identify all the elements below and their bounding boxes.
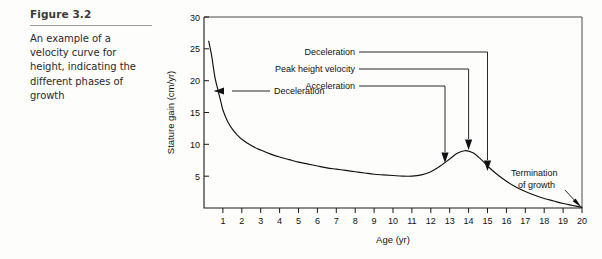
x-tick-label: 10: [388, 216, 398, 226]
annotation-termination-of-growth: Termination of growth: [511, 168, 582, 208]
chart-svg: 30 25 20 15 10 5 Stature gain (cm/yr): [160, 0, 602, 259]
arrow-head-down-icon: [441, 153, 448, 164]
annotation-label-puberty-deceleration: Deceleration: [304, 47, 355, 57]
x-tick-label: 11: [407, 216, 416, 226]
y-axis-tick-labels: 30 25 20 15 10 5: [190, 13, 200, 182]
x-tick-label: 12: [426, 216, 436, 226]
x-tick-label: 6: [315, 216, 320, 226]
x-tick-label: 15: [482, 216, 492, 226]
x-tick-label: 7: [334, 216, 339, 226]
x-axis-ticks: [223, 208, 582, 213]
y-axis-title: Stature gain (cm/yr): [165, 71, 176, 154]
arrow-head-down-icon: [465, 140, 472, 151]
x-tick-label: 4: [277, 216, 282, 226]
annotation-label-termination-line2: of growth: [518, 180, 555, 190]
caption-divider: [30, 25, 152, 26]
x-tick-label: 1: [220, 216, 225, 226]
x-tick-label: 8: [353, 216, 358, 226]
figure-caption-block: Figure 3.2 An example of a velocity curv…: [30, 8, 152, 103]
x-tick-label: 9: [372, 216, 377, 226]
x-tick-label: 18: [539, 216, 549, 226]
y-tick-label: 15: [190, 108, 200, 118]
figure-number: Figure 3.2: [30, 8, 152, 25]
y-tick-label: 20: [190, 76, 200, 86]
x-tick-label: 2: [239, 216, 244, 226]
velocity-curve-chart: 30 25 20 15 10 5 Stature gain (cm/yr): [160, 0, 602, 259]
x-tick-label: 19: [558, 216, 568, 226]
x-tick-label: 14: [464, 216, 474, 226]
x-axis-tick-labels: 1 2 3 4 5 6 7 8 9 10 11 12 13 14 15 16 1…: [220, 216, 587, 226]
figure-screenshot: Figure 3.2 An example of a velocity curv…: [0, 0, 602, 259]
x-tick-label: 16: [501, 216, 511, 226]
x-tick-label: 20: [577, 216, 587, 226]
figure-caption-text: An example of a velocity curve for heigh…: [30, 32, 152, 103]
annotation-label-peak-height-velocity: Peak height velocity: [275, 64, 356, 74]
x-tick-label: 13: [445, 216, 455, 226]
y-tick-label: 5: [195, 172, 200, 182]
y-tick-label: 30: [190, 13, 200, 23]
y-tick-label: 10: [190, 140, 200, 150]
x-tick-label: 17: [520, 216, 530, 226]
x-axis-title: Age (yr): [376, 234, 410, 245]
annotation-label-termination-line1: Termination: [511, 168, 558, 178]
y-tick-label: 25: [190, 44, 200, 54]
x-tick-label: 5: [296, 216, 301, 226]
annotation-label-acceleration: Acceleration: [305, 81, 355, 91]
x-tick-label: 3: [258, 216, 263, 226]
annotation-peak-height-velocity: Peak height velocity: [275, 64, 472, 150]
arrow-head-down-icon: [484, 161, 491, 172]
annotation-acceleration: Acceleration: [305, 81, 448, 163]
